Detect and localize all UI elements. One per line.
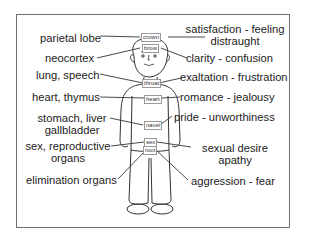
label-satisfaction: satisfaction - feeling distraught bbox=[180, 23, 290, 47]
label-sexual-desire: sexual desire apathy bbox=[200, 142, 270, 166]
tag-heart: heart bbox=[144, 95, 162, 104]
label-romance: romance - jealousy bbox=[180, 91, 275, 103]
label-parietal-lobe: parietal lobe bbox=[40, 32, 101, 44]
label-sex-reproductive: sex, reproductive organs bbox=[23, 140, 113, 164]
tag-navel: navel bbox=[144, 121, 162, 130]
tag-root: root bbox=[143, 146, 157, 155]
label-neocortex: neocortex bbox=[45, 52, 94, 64]
tag-brow: brow bbox=[142, 44, 159, 53]
label-elimination-organs: elimination organs bbox=[26, 174, 117, 186]
tag-throat: throat bbox=[142, 79, 161, 88]
label-clarity: clarity - confusion bbox=[186, 52, 273, 64]
label-exaltation: exaltation - frustration bbox=[180, 71, 288, 83]
label-aggression-fear: aggression - fear bbox=[191, 175, 275, 187]
label-heart-thymus: heart, thymus bbox=[32, 91, 100, 103]
label-stomach-liver: stomach, liver gallbladder bbox=[36, 112, 108, 136]
label-lung-speech: lung, speech bbox=[36, 69, 99, 81]
tag-crown: crown bbox=[141, 33, 161, 42]
label-pride: pride - unworthiness bbox=[174, 111, 275, 123]
